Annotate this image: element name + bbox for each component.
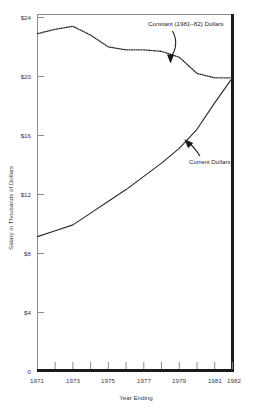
chart-canvas: $24 $20 $16 $12 $8 $4 0 Salary in Thousa… <box>0 0 253 408</box>
y-axis-ticks <box>38 18 45 313</box>
y-axis-title: Salary in Thousands of Dollars <box>7 166 14 250</box>
constant-dollars-annotation: Constant (1981–82) Dollars <box>148 20 224 64</box>
plot-frame <box>37 14 234 372</box>
x-tick-label-1979: 1979 <box>172 377 186 384</box>
y-tick-label-24: $24 <box>21 14 32 21</box>
y-tick-label-16: $16 <box>21 132 32 139</box>
x-tick-label-1975: 1975 <box>101 377 115 384</box>
current-dollars-annotation: Current Dollars <box>184 139 230 165</box>
y-tick-label-12: $12 <box>21 191 32 198</box>
x-tick-label-1971: 1971 <box>30 377 44 384</box>
constant-dollars-arrowhead <box>167 55 174 64</box>
x-axis-ticks <box>38 362 233 369</box>
constant-dollars-label: Constant (1981–82) Dollars <box>148 20 224 27</box>
y-tick-label-0: 0 <box>28 368 32 375</box>
current-dollars-label: Current Dollars <box>189 158 231 165</box>
y-axis-tick-labels: $24 $20 $16 $12 $8 $4 0 <box>21 14 32 375</box>
x-axis-tick-labels: 1971 1973 1975 1977 1979 1981 1982 <box>30 377 241 384</box>
x-tick-label-1982: 1982 <box>227 377 241 384</box>
x-tick-label-1981: 1981 <box>208 377 222 384</box>
series-line-constant-dollars <box>38 26 233 77</box>
x-axis-title: Year Ending <box>119 394 153 401</box>
x-tick-label-1977: 1977 <box>137 377 151 384</box>
current-dollars-arrowhead <box>184 139 193 148</box>
y-tick-label-4: $4 <box>24 309 31 316</box>
x-tick-label-1973: 1973 <box>66 377 80 384</box>
chart-figure: $24 $20 $16 $12 $8 $4 0 Salary in Thousa… <box>0 0 253 408</box>
y-tick-label-8: $8 <box>24 250 31 257</box>
y-tick-label-20: $20 <box>21 73 32 80</box>
